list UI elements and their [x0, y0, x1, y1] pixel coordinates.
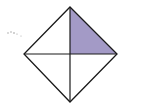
- faint-marks: [7, 31, 21, 36]
- quartered-diamond-diagram: [0, 0, 151, 112]
